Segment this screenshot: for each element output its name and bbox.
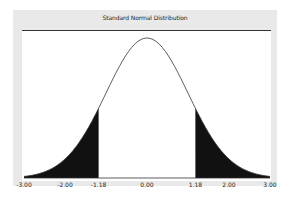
left-tail-shade	[24, 108, 99, 178]
x-tick-label: -1.18	[91, 181, 107, 188]
x-tick-label: 1.18	[189, 181, 202, 188]
density-curve	[24, 38, 270, 176]
x-tick-label: 3.00	[263, 181, 276, 188]
x-tick-label: -2.00	[57, 181, 73, 188]
x-tick-label: 2.00	[222, 181, 235, 188]
normal-curve-plot	[0, 0, 289, 200]
right-tail-shade	[195, 108, 270, 178]
x-tick-label: 0.00	[140, 181, 153, 188]
x-tick-label: -3.00	[16, 181, 32, 188]
